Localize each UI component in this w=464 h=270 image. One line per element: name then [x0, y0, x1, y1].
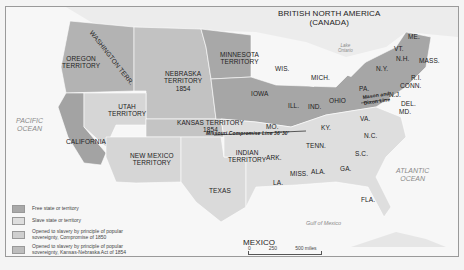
label-conn: CONN.	[400, 82, 421, 89]
label-ga: GA.	[340, 165, 352, 172]
label-new-mexico-territory: NEW MEXICO TERRITORY	[130, 152, 174, 167]
legend-swatch-slave	[12, 217, 25, 225]
label-ri: R.I.	[411, 74, 422, 81]
legend-swatch-free	[12, 205, 25, 213]
label-vt: VT.	[394, 45, 404, 52]
map-legend: Free state or territory Slave state or t…	[12, 205, 142, 257]
legend-item: Free state or territory	[12, 205, 142, 213]
label-utah-territory: UTAH TERRITORY	[108, 103, 146, 118]
label-va: VA.	[360, 115, 370, 122]
label-missouri-compromise-line: Missouri Compromise Line 36°30'	[206, 131, 289, 137]
label-atlantic-ocean: ATLANTIC OCEAN	[396, 167, 429, 183]
label-fla: FLA.	[361, 196, 375, 203]
label-ill: ILL.	[288, 102, 299, 109]
label-canada: BRITISH NORTH AMERICA (CANADA)	[278, 9, 380, 27]
label-la: LA.	[273, 179, 283, 186]
label-pa: PA.	[359, 85, 369, 92]
label-minnesota-territory: MINNESOTA TERRITORY	[220, 51, 259, 66]
label-indian-territory: INDIAN TERRITORY	[228, 149, 266, 164]
label-ohio: OHIO	[329, 97, 346, 104]
label-tenn: TENN.	[306, 142, 326, 149]
label-iowa: IOWA	[251, 90, 269, 97]
label-california: CALIFORNIA	[66, 138, 106, 145]
label-me: ME.	[408, 33, 420, 40]
label-ala: ALA.	[311, 168, 326, 175]
label-ny: N.Y.	[376, 65, 388, 72]
label-md: MD.	[399, 108, 411, 115]
label-nj: N.J.	[389, 91, 401, 98]
label-lake-ontario: Lake Ontario	[338, 43, 353, 53]
label-nebraska-territory: NEBRASKA TERRITORY 1854	[164, 70, 202, 92]
label-ind: IND.	[308, 103, 321, 110]
label-mass: MASS.	[419, 57, 440, 64]
label-oregon-territory: OREGON TERRITORY	[62, 55, 100, 70]
label-ky: KY.	[321, 124, 331, 131]
legend-item: Slave state or territory	[12, 217, 142, 225]
label-nh: N.H.	[396, 55, 409, 62]
label-sc: S.C.	[355, 150, 368, 157]
legend-item: Opened to slavery by principle of popula…	[12, 244, 142, 255]
map-frame: BRITISH NORTH AMERICA (CANADA) MEXICO PA…	[5, 6, 459, 257]
label-pacific-ocean: PACIFIC OCEAN	[16, 117, 43, 133]
label-texas: TEXAS	[209, 187, 231, 194]
legend-swatch-1854	[12, 246, 25, 254]
label-wis: WIS.	[275, 65, 289, 72]
label-gulf-of-mexico: Gulf of Mexico	[306, 220, 341, 226]
legend-item: Opened to slavery by principle of popula…	[12, 229, 142, 240]
label-ark: ARK.	[266, 154, 282, 161]
label-nc: N.C.	[364, 132, 377, 139]
legend-swatch-1850	[12, 231, 25, 239]
scale-bar: 0250500 miles 0250500 kilometers	[248, 245, 322, 257]
label-del: DEL.	[401, 100, 416, 107]
label-mich: MICH.	[311, 74, 330, 81]
label-miss: MISS.	[290, 170, 308, 177]
